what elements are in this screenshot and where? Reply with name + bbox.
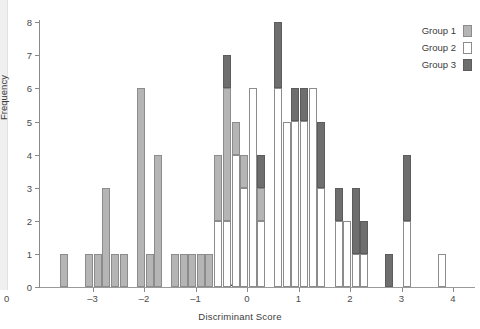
x-tick-label: –1 xyxy=(190,293,201,304)
bar-segment-g3 xyxy=(291,88,299,121)
x-tick-label: –3 xyxy=(87,293,98,304)
legend-item-label: Group 3 xyxy=(422,59,456,70)
histogram-bar xyxy=(352,188,360,287)
histogram-bar xyxy=(111,254,119,287)
histogram-bar xyxy=(205,254,213,287)
histogram-bar xyxy=(249,88,257,287)
bar-segment-g2 xyxy=(343,221,351,287)
histogram-bar xyxy=(102,188,110,287)
bar-segment-g3 xyxy=(274,22,282,88)
histogram-bar xyxy=(188,254,196,287)
y-tick-label: 0 xyxy=(27,282,32,293)
bar-segment-g2 xyxy=(223,221,231,287)
histogram-figure: Frequency 0 012345678 –3–2–101234 Group … xyxy=(0,0,480,329)
origin-label: 0 xyxy=(4,293,9,304)
legend-item: Group 1 xyxy=(422,22,472,39)
x-tick xyxy=(93,288,94,292)
bar-segment-g2 xyxy=(300,121,308,287)
histogram-bar xyxy=(317,122,325,288)
bar-segment-g1 xyxy=(223,88,231,220)
bar-segment-g3 xyxy=(300,88,308,121)
x-tick-label: 2 xyxy=(347,293,352,304)
x-axis-line xyxy=(39,287,475,288)
bar-segment-g1 xyxy=(146,254,154,287)
histogram-bar xyxy=(94,254,102,287)
bar-segment-g3 xyxy=(335,188,343,221)
bar-segment-g3 xyxy=(257,155,265,188)
y-axis-area: Frequency xyxy=(0,0,39,329)
bar-segment-g1 xyxy=(232,122,240,155)
legend-swatch-g3 xyxy=(463,59,472,71)
bar-segment-g2 xyxy=(403,221,411,287)
histogram-bar xyxy=(283,122,291,288)
histogram-bar xyxy=(274,22,282,287)
x-tick-label: 0 xyxy=(244,293,249,304)
histogram-bar xyxy=(240,155,248,287)
y-tick-label: 5 xyxy=(27,116,32,127)
histogram-bar xyxy=(335,188,343,287)
histogram-bar xyxy=(403,155,411,287)
legend-item: Group 2 xyxy=(422,39,472,56)
histogram-bar xyxy=(438,254,446,287)
histogram-bar xyxy=(309,88,317,287)
x-axis-title: Discriminant Score xyxy=(0,311,480,322)
histogram-bar xyxy=(154,155,162,287)
y-tick-label: 7 xyxy=(27,50,32,61)
bar-segment-g2 xyxy=(240,188,248,287)
legend-item-label: Group 1 xyxy=(422,25,456,36)
x-tick xyxy=(453,288,454,292)
legend-swatch-g1 xyxy=(463,25,472,37)
histogram-bar xyxy=(300,88,308,287)
bar-segment-g1 xyxy=(111,254,119,287)
histogram-bar xyxy=(146,254,154,287)
bar-segment-g2 xyxy=(360,254,368,287)
y-tick-label: 2 xyxy=(27,215,32,226)
y-tick-label: 8 xyxy=(27,17,32,28)
bar-segment-g1 xyxy=(94,254,102,287)
histogram-bar xyxy=(385,254,393,287)
histogram-bar xyxy=(197,254,205,287)
x-tick-label: 1 xyxy=(296,293,301,304)
legend: Group 1Group 2Group 3 xyxy=(422,22,472,73)
bar-segment-g2 xyxy=(249,88,257,287)
bar-segment-g2 xyxy=(214,221,222,287)
bar-segment-g3 xyxy=(385,254,393,287)
histogram-bar xyxy=(171,254,179,287)
histogram-bar xyxy=(257,155,265,287)
bar-segment-g3 xyxy=(360,221,368,254)
legend-item-label: Group 2 xyxy=(422,42,456,53)
histogram-bar xyxy=(214,155,222,287)
bar-segment-g2 xyxy=(283,122,291,288)
histogram-bar xyxy=(180,254,188,287)
histogram-bar xyxy=(360,221,368,287)
bar-segment-g2 xyxy=(309,88,317,287)
bar-segment-g1 xyxy=(180,254,188,287)
bar-segment-g2 xyxy=(317,188,325,287)
x-tick-label: 3 xyxy=(399,293,404,304)
y-tick xyxy=(35,287,40,288)
x-tick-label: –2 xyxy=(139,293,150,304)
legend-swatch-g2 xyxy=(463,42,472,54)
bar-segment-g1 xyxy=(85,254,93,287)
histogram-bar xyxy=(291,88,299,287)
bar-segment-g1 xyxy=(257,188,265,221)
legend-item: Group 3 xyxy=(422,56,472,73)
x-tick xyxy=(402,288,403,292)
bar-segment-g2 xyxy=(335,221,343,287)
bar-segment-g1 xyxy=(214,155,222,221)
bar-segment-g1 xyxy=(60,254,68,287)
x-tick xyxy=(350,288,351,292)
bar-segment-g2 xyxy=(291,121,299,287)
x-tick xyxy=(247,288,248,292)
bar-segment-g1 xyxy=(188,254,196,287)
histogram-bar xyxy=(343,221,351,287)
histogram-bar xyxy=(137,88,145,287)
bar-segment-g2 xyxy=(257,221,265,287)
y-tick-label: 3 xyxy=(27,182,32,193)
y-tick-label: 4 xyxy=(27,149,32,160)
bar-segment-g1 xyxy=(102,188,110,287)
bar-segment-g1 xyxy=(171,254,179,287)
y-tick-label: 6 xyxy=(27,83,32,94)
bar-segment-g2 xyxy=(438,254,446,287)
y-tick-label: 1 xyxy=(27,248,32,259)
